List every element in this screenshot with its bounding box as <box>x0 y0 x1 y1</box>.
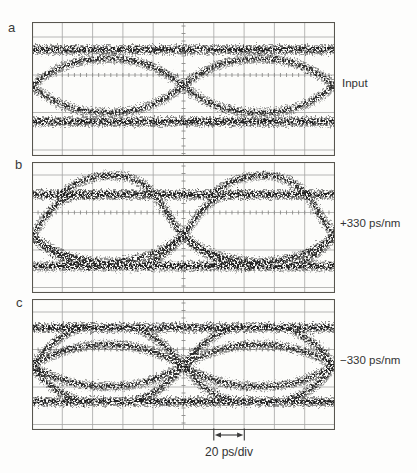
eye-diagram-panel-negative-dispersion <box>32 299 335 430</box>
panel-letter-a: a <box>8 21 15 34</box>
eye-diagram-positive-dispersion-plot <box>32 162 335 293</box>
figure-eye-diagrams: a Input b +330 ps/nm c −330 ps/nm 20 ps/… <box>0 0 417 473</box>
panel-letter-b: b <box>15 158 22 171</box>
eye-diagram-input-plot <box>32 22 335 156</box>
scale-arrow-icon <box>206 428 252 444</box>
scale-bar-label: 20 ps/div <box>193 445 265 459</box>
eye-diagram-panel-positive-dispersion <box>32 162 335 293</box>
panel-letter-c: c <box>16 296 23 309</box>
panel-annotation-positive-dispersion: +330 ps/nm <box>340 217 400 230</box>
panel-annotation-negative-dispersion: −330 ps/nm <box>340 354 400 367</box>
panel-annotation-input: Input <box>342 77 368 90</box>
eye-diagram-negative-dispersion-plot <box>32 299 335 430</box>
eye-diagram-panel-input <box>32 22 335 156</box>
